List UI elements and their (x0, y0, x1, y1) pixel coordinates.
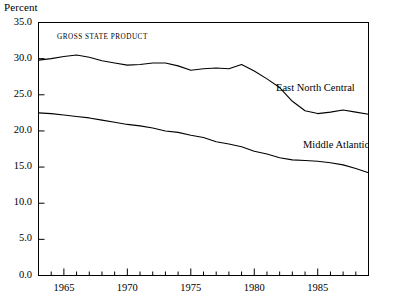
x-tick-label: 1975 (171, 282, 211, 293)
x-tick-label: 1965 (44, 282, 84, 293)
y-tick-label: 10.0 (2, 196, 32, 207)
y-tick-label: 0.0 (2, 269, 32, 280)
y-tick-label: 25.0 (2, 88, 32, 99)
y-tick-label: 20.0 (2, 124, 32, 135)
chart-figure: Percent GROSS STATE PRODUCT East North C… (0, 0, 400, 305)
y-tick-label: 35.0 (2, 16, 32, 27)
y-tick-label: 5.0 (2, 232, 32, 243)
chart-title: GROSS STATE PRODUCT (57, 33, 148, 41)
x-tick-label: 1980 (234, 282, 274, 293)
plot-canvas (0, 0, 400, 305)
series-label-east-north-central: East North Central (276, 82, 355, 93)
x-tick-label: 1970 (107, 282, 147, 293)
y-tick-label: 30.0 (2, 52, 32, 63)
series-label-middle-atlantic: Middle Atlantic (303, 139, 369, 150)
x-tick-label: 1985 (298, 282, 338, 293)
y-tick-label: 15.0 (2, 160, 32, 171)
x-axis-ticks (39, 269, 369, 276)
